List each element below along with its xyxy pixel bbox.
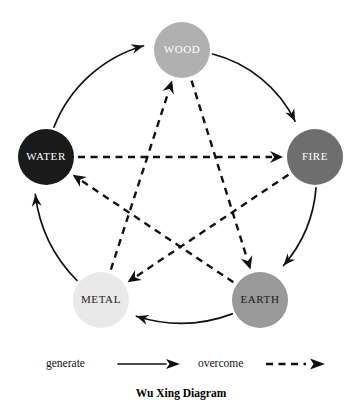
overcome-cycle-group [73, 80, 289, 282]
diagram-canvas: WOODFIREEARTHMETALWATER generate overcom… [0, 0, 363, 419]
element-node-metal[interactable]: METAL [73, 272, 129, 328]
generate-arrow-metal-to-water [35, 194, 77, 280]
generate-arrow-wood-to-fire [213, 54, 295, 121]
overcome-arrow-earth-to-water [82, 181, 234, 282]
node-circle-fire[interactable] [287, 129, 343, 185]
node-circle-wood[interactable] [154, 22, 210, 78]
overcome-arrow-metal-to-wood [111, 91, 169, 270]
overcome-arrowhead-wood-to-earth [241, 255, 252, 269]
legend-overcome-arrowhead [310, 359, 325, 370]
overcome-arrowhead-earth-to-water [73, 175, 87, 187]
generate-arrow-water-to-wood [54, 46, 144, 127]
overcome-arrowhead-metal-to-wood [162, 80, 173, 94]
generate-arrow-earth-to-metal [136, 314, 232, 323]
element-node-water[interactable]: WATER [18, 129, 74, 185]
overcome-arrow-wood-to-earth [192, 81, 248, 259]
legend: generate overcome [46, 357, 325, 370]
element-node-earth[interactable]: EARTH [232, 272, 288, 328]
element-node-fire[interactable]: FIRE [287, 129, 343, 185]
generate-arrow-fire-to-earth [284, 188, 316, 266]
node-circle-earth[interactable] [232, 272, 288, 328]
legend-generate-arrowhead [166, 359, 180, 369]
legend-overcome-label: overcome [198, 357, 243, 369]
diagram-caption: Wu Xing Diagram [136, 387, 227, 400]
element-node-wood[interactable]: WOOD [154, 22, 210, 78]
generate-arrowhead-wood-to-fire [285, 108, 295, 121]
node-circle-water[interactable] [18, 129, 74, 185]
element-nodes-group: WOODFIREEARTHMETALWATER [18, 22, 343, 328]
node-circle-metal[interactable] [73, 272, 129, 328]
overcome-arrow-fire-to-metal [137, 175, 289, 276]
wu-xing-diagram: WOODFIREEARTHMETALWATER generate overcom… [0, 0, 363, 419]
legend-generate-label: generate [46, 357, 85, 370]
overcome-arrowhead-fire-to-metal [128, 270, 142, 282]
